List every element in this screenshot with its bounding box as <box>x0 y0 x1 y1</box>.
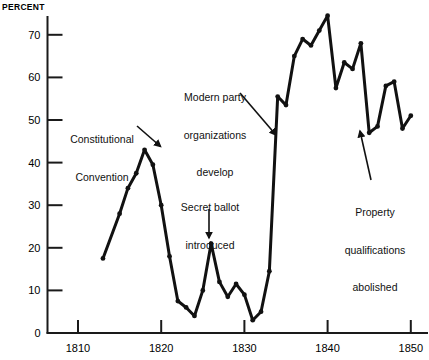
data-point <box>284 103 289 108</box>
annotation-line: abolished <box>327 281 423 294</box>
data-point <box>192 314 197 319</box>
data-point <box>300 37 305 42</box>
data-point <box>383 84 388 89</box>
data-point <box>200 288 205 293</box>
annotation-line: Property <box>327 206 423 219</box>
x-tick-label: 1820 <box>149 342 173 354</box>
data-point <box>175 299 180 304</box>
x-tick-label: 1810 <box>66 342 90 354</box>
data-point <box>292 54 297 59</box>
data-point <box>375 124 380 129</box>
data-point <box>392 79 397 84</box>
x-tick-label: 1850 <box>399 342 423 354</box>
y-tick-label: 60 <box>28 71 40 83</box>
annotation-constitutional-convention: Constitutional Convention <box>52 108 152 208</box>
data-point <box>267 269 272 274</box>
data-point <box>234 282 239 287</box>
data-point <box>242 292 247 297</box>
x-tick-label: 1840 <box>315 342 339 354</box>
y-tick-label: 70 <box>28 29 40 41</box>
data-point <box>250 318 255 323</box>
x-axis-ticks: 18101820183018401850 <box>66 320 423 354</box>
data-point <box>217 279 222 284</box>
data-point <box>159 203 164 208</box>
y-tick-label: 10 <box>28 284 40 296</box>
data-point <box>225 294 230 299</box>
data-point <box>117 211 122 216</box>
annotation-line: Modern party <box>168 91 262 104</box>
y-tick-label: 40 <box>28 157 40 169</box>
data-point <box>101 256 106 261</box>
data-point <box>334 86 339 91</box>
y-axis-title: PERCENT <box>2 2 45 12</box>
annotation-line: Secret ballot <box>165 201 255 214</box>
data-point <box>275 94 280 99</box>
data-point <box>309 43 314 48</box>
data-point <box>408 113 413 118</box>
data-point <box>259 309 264 314</box>
annotation-line: organizations <box>168 129 262 142</box>
annotation-secret-ballot: Secret ballot introduced <box>165 176 255 276</box>
annotation-line: qualifications <box>327 244 423 257</box>
x-tick-label: 1830 <box>232 342 256 354</box>
data-point <box>317 28 322 33</box>
y-tick-label: 20 <box>28 242 40 254</box>
data-point <box>400 126 405 131</box>
annotation-property-qualifications: Property qualifications abolished <box>327 181 423 319</box>
data-point <box>358 41 363 46</box>
data-point <box>342 60 347 65</box>
y-tick-label: 0 <box>34 327 40 339</box>
data-point <box>367 130 372 135</box>
annotation-line: Convention <box>52 171 152 184</box>
annotation-line: introduced <box>165 239 255 252</box>
data-point <box>184 305 189 310</box>
y-tick-label: 30 <box>28 199 40 211</box>
data-point <box>350 66 355 71</box>
data-point <box>325 13 330 18</box>
annotation-line: Constitutional <box>52 133 152 146</box>
y-tick-label: 50 <box>28 114 40 126</box>
chart-figure: PERCENT 010203040506070 1810182018301840… <box>0 0 429 360</box>
leader-property-qualifications <box>360 131 371 180</box>
